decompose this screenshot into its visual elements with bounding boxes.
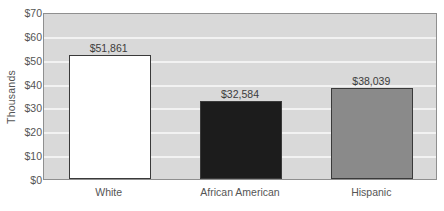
x-axis-tick-label: White xyxy=(95,186,122,198)
y-axis-tick-label: $10 xyxy=(20,151,42,162)
y-axis-tick-label: $50 xyxy=(20,55,42,66)
bar-value-label: $32,584 xyxy=(221,89,259,100)
bar xyxy=(331,88,413,179)
x-axis-tick-labels: WhiteAfrican AmericanHispanic xyxy=(43,186,437,204)
x-axis-tick-label: African American xyxy=(200,186,279,198)
bar xyxy=(69,55,151,179)
bar xyxy=(200,101,282,179)
y-axis-title-text: Thousands xyxy=(5,70,17,124)
x-axis-tick-label: Hispanic xyxy=(351,186,391,198)
bar-value-label: $38,039 xyxy=(352,76,390,87)
bar-value-label: $51,861 xyxy=(90,43,128,54)
y-axis-tick-label: $0 xyxy=(20,175,42,186)
y-axis-tick-label: $70 xyxy=(20,8,42,19)
y-axis-tick-label: $60 xyxy=(20,31,42,42)
y-axis-tick-label: $20 xyxy=(20,127,42,138)
y-axis-tick-label: $30 xyxy=(20,103,42,114)
bar-chart: Thousands $0$10$20$30$40$50$60$70 $51,86… xyxy=(0,0,444,211)
y-axis-tick-label: $40 xyxy=(20,79,42,90)
y-axis-tick-labels: $0$10$20$30$40$50$60$70 xyxy=(20,0,42,193)
y-axis-title: Thousands xyxy=(0,0,22,193)
